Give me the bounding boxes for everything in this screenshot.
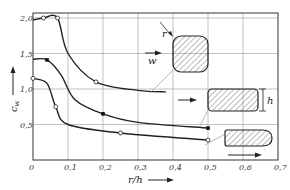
data-marker [206, 126, 210, 130]
x-tick-label: 0,2 [99, 163, 112, 172]
data-marker [54, 105, 58, 109]
x-tick-label: 0,5 [204, 163, 217, 172]
rounded-nose-shape [225, 130, 272, 146]
x-tick-label: 0,6 [239, 163, 252, 172]
y-tick-label: 1,5 [20, 50, 33, 59]
nose-section-diagram [205, 130, 272, 158]
arrow-right-icon [167, 178, 174, 183]
data-marker [42, 16, 46, 20]
svg-text:r/h: r/h [128, 174, 143, 185]
height-label: h [267, 95, 273, 106]
rounded-square-shape [173, 36, 208, 72]
chart: 00,10,20,30,40,50,60,70,51,01,52,0 cw r/… [0, 0, 290, 190]
y-tick-label: 0,5 [20, 121, 33, 130]
data-marker [94, 80, 98, 84]
data-marker [31, 76, 35, 80]
data-marker [45, 58, 49, 62]
flow-arrow-icon [255, 153, 262, 158]
x-axis-label: r/h [128, 174, 174, 185]
radius-label: r [162, 28, 168, 39]
svg-text:cw: cw [8, 100, 21, 112]
x-tick-label: 0 [29, 163, 34, 172]
y-tick-label: 2,0 [19, 14, 33, 23]
data-marker [101, 112, 105, 116]
x-tick-label: 0,1 [64, 163, 77, 172]
square-section-diagram: r w [145, 22, 208, 93]
flow-arrow-icon [190, 98, 197, 103]
rectangle-shape [208, 89, 258, 111]
series-group [31, 15, 210, 142]
rectangle-section-diagram: h [178, 89, 273, 126]
arrow-up-icon [11, 66, 16, 73]
data-marker [56, 16, 60, 20]
x-tick-label: 0,4 [169, 163, 182, 172]
velocity-label: w [148, 55, 157, 66]
x-tick-label: 0,7 [274, 163, 288, 172]
data-marker [119, 131, 123, 135]
data-marker [206, 138, 210, 142]
y-tick-label: 1,0 [20, 85, 33, 94]
x-tick-label: 0,3 [134, 163, 147, 172]
